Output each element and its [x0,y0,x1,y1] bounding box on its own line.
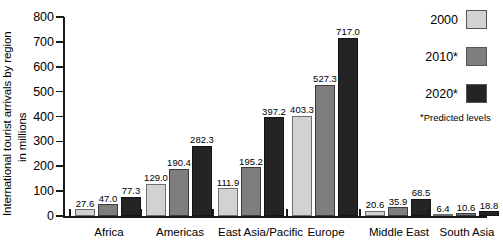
legend-swatch-icon [466,10,487,29]
group-separator-tick [286,209,288,216]
bar[interactable]: 18.8 [479,211,499,216]
legend-item-label: 2020* [420,87,458,101]
bar-value-label: 195.2 [239,157,263,167]
bars-container: 27.647.077.3 [75,17,141,216]
y-axis-title-line-2: in millions [16,113,28,162]
x-axis-line [63,216,487,218]
legend-item-2010[interactable]: 2010* [420,47,503,66]
bar-value-label: 47.0 [99,194,118,204]
legend-item-2000[interactable]: 2000 [420,10,503,29]
bar[interactable]: 27.6 [75,209,95,216]
bar-value-label: 6.4 [436,204,449,214]
category-label: Middle East [365,226,433,238]
y-tick-mark [56,66,64,68]
bar[interactable]: 10.6 [456,213,476,216]
bar-value-label: 27.6 [76,199,95,209]
y-tick-mark [56,190,64,192]
y-axis-title: International tourist arrivals by region… [0,0,34,218]
bar-value-label: 190.4 [167,158,191,168]
legend-footnote: *Predicted levels [420,112,491,123]
y-tick-label: 100 [33,185,54,198]
category-label: Europe [292,226,360,238]
y-tick-label: 700 [33,36,54,49]
bar-value-label: 10.6 [457,203,476,213]
bar-value-label: 77.3 [122,186,141,196]
legend-item-2020[interactable]: 2020* [420,84,503,103]
bar[interactable]: 111.9 [218,188,238,216]
bar[interactable]: 397.2 [264,117,284,216]
bar[interactable]: 195.2 [241,167,261,216]
bar-value-label: 397.2 [262,107,286,117]
bar-value-label: 403.3 [290,105,314,115]
bar[interactable]: 47.0 [98,204,118,216]
category-label: East Asia/Pacific [218,226,286,238]
bar-value-label: 111.9 [217,178,239,188]
bar[interactable]: 20.6 [365,211,385,216]
group-separator-tick [359,209,361,216]
bar[interactable]: 6.4 [433,214,453,216]
legend-swatch-icon [466,47,487,66]
y-tick-label: 400 [33,110,54,123]
y-tick-label: 300 [33,135,54,148]
y-tick-label: 500 [33,85,54,98]
y-tick-mark [56,16,64,18]
y-tick-mark [56,215,64,217]
bar-value-label: 282.3 [190,135,214,145]
bar-value-label: 129.0 [144,173,168,183]
y-tick-mark [56,41,64,43]
bar[interactable]: 717.0 [338,38,358,216]
y-tick-label: 800 [33,11,54,24]
y-axis-title-line-1: International tourist arrivals by region [1,31,13,216]
bar-value-label: 68.5 [412,188,431,198]
bar-value-label: 717.0 [336,27,360,37]
bar-group: 27.647.077.3Africa [75,17,143,216]
bars-container: 129.0190.4282.3 [146,17,212,216]
legend-swatch-icon [466,84,487,103]
bar[interactable]: 403.3 [292,116,312,216]
legend-item-label: 2000 [420,13,458,27]
bar[interactable]: 190.4 [169,169,189,216]
group-separator-tick [69,209,71,216]
y-tick-mark [56,165,64,167]
bar-group: 403.3527.3717.0Europe [292,17,360,216]
bar[interactable]: 35.9 [388,207,408,216]
bar-value-label: 35.9 [389,197,408,207]
category-label: Africa [75,226,143,238]
category-label: Americas [146,226,214,238]
bar[interactable]: 77.3 [121,197,141,216]
group-separator-tick [427,209,429,216]
legend-item-label: 2010* [420,50,458,64]
bars-container: 111.9195.2397.2 [218,17,284,216]
y-tick-label: 0 [47,210,54,223]
bar-group: 129.0190.4282.3Americas [146,17,214,216]
category-label: South Asia [433,226,501,238]
bar-value-label: 527.3 [313,74,337,84]
y-tick-mark [56,91,64,93]
group-separator-tick [140,209,142,216]
group-separator-tick [212,209,214,216]
tourist-arrivals-bar-chart: International tourist arrivals by region… [0,0,503,245]
bar-value-label: 18.8 [480,201,499,211]
y-tick-label: 600 [33,61,54,74]
y-tick-mark [56,141,64,143]
bar-group: 111.9195.2397.2East Asia/Pacific [218,17,286,216]
bar-value-label: 20.6 [366,200,385,210]
footnote-text: Predicted levels [424,112,491,123]
bar[interactable]: 527.3 [315,85,335,216]
bar[interactable]: 129.0 [146,184,166,216]
legend: 20002010*2020* *Predicted levels [420,10,503,130]
bar[interactable]: 282.3 [192,146,212,216]
y-tick-mark [56,116,64,118]
bars-container: 403.3527.3717.0 [292,17,358,216]
y-tick-label: 200 [33,160,54,173]
